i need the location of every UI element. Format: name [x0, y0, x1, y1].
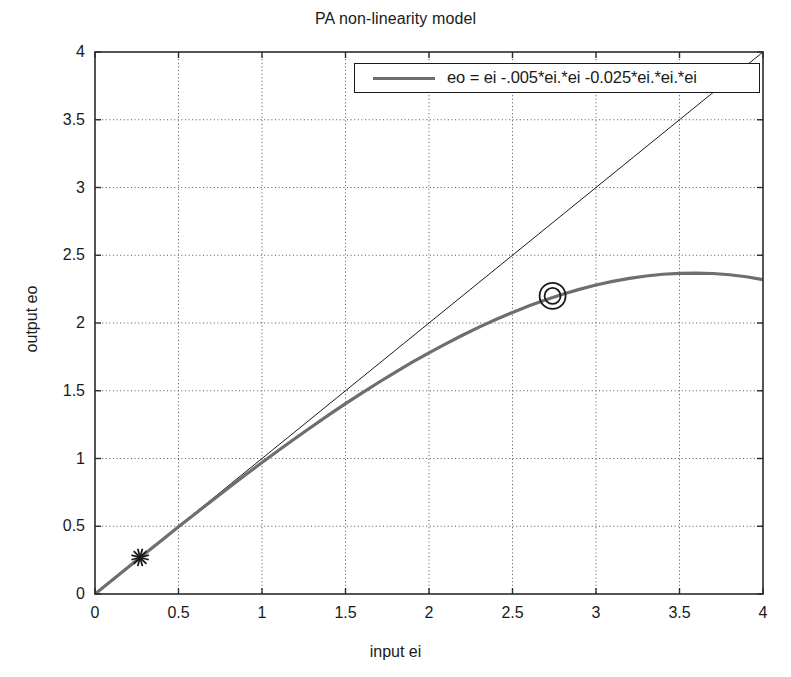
- legend-entry-label: eo = ei -.005*ei.*ei -0.025*ei.*ei.*ei: [447, 68, 697, 87]
- x-tick-label: 1.5: [334, 604, 356, 622]
- legend: eo = ei -.005*ei.*ei -0.025*ei.*ei.*ei: [354, 63, 760, 93]
- x-tick-label: 4: [759, 604, 768, 622]
- y-tick-label: 3: [33, 179, 85, 197]
- y-axis-label: output eo: [23, 249, 41, 389]
- x-tick-label: 0: [91, 604, 100, 622]
- x-tick-label: 3.5: [668, 604, 690, 622]
- x-tick-label: 1: [258, 604, 267, 622]
- x-tick-label: 2.5: [501, 604, 523, 622]
- x-tick-label: 0.5: [167, 604, 189, 622]
- x-tick-label: 2: [425, 604, 434, 622]
- x-tick-label: 3: [592, 604, 601, 622]
- chart-figure: PA non-linearity model 00.511.522.533.54…: [0, 0, 791, 677]
- y-tick-label: 4: [33, 43, 85, 61]
- y-tick-label: 3.5: [33, 111, 85, 129]
- x-axis-label: input ei: [0, 643, 791, 661]
- y-tick-label: 1: [33, 450, 85, 468]
- plot-canvas: [0, 0, 791, 677]
- legend-swatch-line: [373, 77, 435, 80]
- y-tick-label: 0: [33, 585, 85, 603]
- y-tick-label: 0.5: [33, 517, 85, 535]
